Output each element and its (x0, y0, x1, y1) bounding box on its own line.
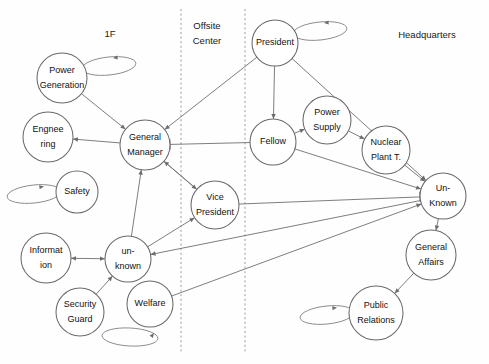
edge-unknown-lower-to-vice-president (148, 218, 195, 247)
edge-line (165, 57, 257, 129)
node-power-supply[interactable]: PowerSupply (303, 96, 351, 144)
node-label-security-guard-line2: Guard (67, 314, 92, 324)
zone-label-zone-offsite-center: OffsiteCenter (193, 20, 222, 46)
node-label-power-generation-line2: Generation (40, 80, 85, 90)
self-loop-ellipse (6, 182, 62, 206)
node-label-safety: Safety (64, 186, 90, 196)
self-loop-welfare (102, 327, 159, 348)
node-circle-information[interactable] (21, 233, 71, 283)
self-loop-power-generation (81, 54, 137, 78)
edge-arrow-marker (73, 137, 78, 141)
edge-arrow-marker (271, 114, 275, 119)
node-nuclear-plant-t[interactable]: NuclearPlant T. (362, 126, 410, 174)
node-label-unknown-right: Un- (436, 183, 451, 193)
node-engineering[interactable]: Engneering (23, 112, 73, 162)
edge-line (239, 197, 420, 204)
node-label-general-affairs-line2: Affairs (418, 257, 444, 267)
edge-arrow-marker (435, 225, 439, 230)
node-circle-engineering[interactable] (23, 112, 73, 162)
edge-arrow-marker (138, 170, 142, 175)
node-general-affairs[interactable]: GeneralAffairs (406, 230, 456, 280)
network-diagram-canvas: PowerGenerationEngneeringGeneralManagerS… (0, 0, 489, 364)
edge-arrow-marker (416, 204, 421, 208)
edge-information-to-unknown-lower (71, 256, 105, 261)
zone-label-text: Offsite (193, 20, 220, 31)
edge-line (81, 94, 125, 130)
edge-unknown-lower-to-general-manager (131, 170, 142, 237)
node-label-vice-president-line2: President (196, 207, 235, 217)
edge-general-manager-to-engineering (73, 137, 120, 143)
node-label-nuclear-plant-t-line2: Plant T. (371, 152, 401, 162)
node-welfare[interactable]: Welfare (127, 281, 173, 327)
node-circle-power-generation[interactable] (37, 53, 87, 103)
self-loop-public-relations (299, 303, 355, 327)
node-label-unknown-right-line2: Known (429, 198, 457, 208)
zone-label-zone-headquarters: Headquarters (398, 29, 456, 40)
edge-line (148, 218, 195, 247)
node-label-welfare: Welfare (135, 298, 166, 308)
node-circle-vice-president[interactable] (191, 181, 239, 229)
node-label-security-guard: Security (64, 299, 97, 309)
node-public-relations[interactable]: PublicRelations (349, 286, 403, 340)
edge-power-generation-to-general-manager (81, 94, 125, 130)
node-label-engineering: Engnee (32, 124, 63, 134)
node-label-fellow: Fellow (260, 136, 287, 146)
node-circle-nuclear-plant-t[interactable] (362, 126, 410, 174)
zone-label-text: 1F (104, 28, 115, 39)
node-label-engineering-line2: ring (40, 139, 55, 149)
node-label-nuclear-plant-t: Nuclear (370, 137, 401, 147)
node-security-guard[interactable]: SecurityGuard (56, 288, 104, 336)
node-label-general-manager-line2: Manager (127, 147, 163, 157)
edge-fellow-to-power-supply (294, 129, 304, 133)
self-loop-president (292, 19, 348, 43)
node-label-general-affairs: General (415, 242, 447, 252)
node-president[interactable]: President (252, 20, 298, 66)
edge-arrow-marker (71, 256, 76, 260)
edge-nuclear-plant-t-to-unknown-right (405, 165, 425, 181)
edge-arrow-marker (189, 218, 194, 223)
edge-vice-president-to-unknown-right (239, 192, 420, 204)
node-label-information-line2: ion (40, 260, 52, 270)
node-label-public-relations: Public (364, 300, 389, 310)
node-vice-president[interactable]: VicePresident (191, 181, 239, 229)
node-circle-unknown-lower[interactable] (105, 236, 151, 282)
self-loop-arrow-marker (150, 333, 154, 338)
node-safety[interactable]: Safety (56, 171, 98, 213)
edge-president-to-general-manager (165, 57, 257, 129)
self-loop-ellipse (102, 327, 159, 348)
node-information[interactable]: Information (21, 233, 71, 283)
node-label-power-supply-line2: Supply (313, 122, 341, 132)
edge-arrow-marker (100, 256, 105, 260)
zone-label-text: Headquarters (398, 29, 456, 40)
edge-security-guard-to-unknown-lower (96, 276, 112, 294)
self-loop-arrow-marker (39, 185, 44, 189)
edge-general-manager-to-vice-president (164, 161, 197, 189)
node-label-power-generation: Power (49, 65, 75, 75)
edge-arrow-marker (416, 185, 421, 189)
node-unknown-lower[interactable]: un-known (105, 236, 151, 282)
node-label-power-supply: Power (314, 107, 340, 117)
node-label-information: Informat (29, 245, 63, 255)
node-circle-general-manager[interactable] (120, 120, 170, 170)
self-loop-ellipse (81, 54, 137, 78)
self-loop-arrow-marker (332, 306, 337, 310)
node-circle-general-affairs[interactable] (406, 230, 456, 280)
node-label-vice-president: Vice (206, 192, 223, 202)
node-unknown-right[interactable]: Un-Known (420, 173, 466, 219)
node-label-public-relations-line2: Relations (357, 315, 395, 325)
node-circle-unknown-right[interactable] (420, 173, 466, 219)
node-fellow[interactable]: Fellow (250, 119, 296, 165)
node-label-unknown-lower-line2: known (115, 261, 141, 271)
node-circle-security-guard[interactable] (56, 288, 104, 336)
edge-unknown-right-to-general-affairs (435, 219, 439, 231)
edge-general-affairs-to-public-relations (395, 273, 414, 293)
node-circle-power-supply[interactable] (303, 96, 351, 144)
node-label-general-manager: General (129, 132, 161, 142)
node-power-generation[interactable]: PowerGeneration (37, 53, 87, 103)
node-circle-public-relations[interactable] (349, 286, 403, 340)
edge-line (131, 170, 141, 237)
edge-line (164, 161, 197, 189)
node-general-manager[interactable]: GeneralManager (120, 120, 170, 170)
self-loop-ellipse (299, 303, 355, 327)
diagram-svg: PowerGenerationEngneeringGeneralManagerS… (0, 0, 489, 364)
